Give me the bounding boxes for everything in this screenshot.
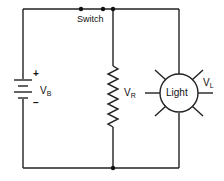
resistor-voltage-subscript: R [131, 92, 136, 99]
battery-voltage-symbol: V [40, 85, 47, 96]
resistor-voltage-symbol: V [124, 87, 131, 98]
battery-minus-sign: − [33, 98, 39, 108]
switch-label: Switch [77, 15, 104, 24]
lamp-text: Light [166, 88, 188, 98]
lamp-voltage-symbol: V [203, 77, 210, 88]
resistor-icon [108, 66, 118, 127]
battery-icon [14, 80, 32, 98]
resistor-voltage-label: VR [124, 88, 136, 98]
circuit-diagram [0, 0, 224, 181]
battery-voltage-subscript: B [47, 90, 52, 97]
switch-contact-right [101, 7, 105, 11]
junction-bottom [111, 166, 115, 170]
switch-contact-left [79, 7, 83, 11]
lamp-voltage-label: VL [203, 78, 214, 88]
battery-voltage-label: VB [40, 86, 51, 96]
battery-plus-sign: + [33, 69, 39, 79]
junction-top [111, 7, 115, 11]
lamp-voltage-subscript: L [210, 82, 214, 89]
